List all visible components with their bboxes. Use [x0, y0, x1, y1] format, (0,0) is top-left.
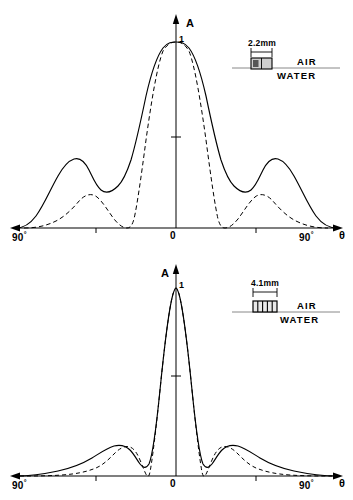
peak-value-label-top: 1 [179, 35, 184, 44]
x-tick-label-left-top: 90° [12, 231, 27, 243]
plot-bottom [0, 250, 353, 500]
y-axis-label-top: A [186, 18, 194, 29]
x-tick-label-center-top: 0 [170, 231, 176, 241]
inset-air-label-top: AIR [297, 57, 317, 67]
y-axis-arrow-bottom [173, 264, 179, 274]
x-tick-left-degree-bottom: ° [24, 479, 27, 486]
x-tick-label-right-bottom: 90° [299, 479, 314, 491]
x-tick-right-number-top: 90 [299, 232, 311, 243]
x-axis-label-bottom: θ [339, 478, 345, 489]
inset-size-label-bottom: 4.1mm [251, 279, 279, 288]
x-tick-label-left-bottom: 90° [12, 479, 27, 491]
x-tick-left-number-top: 90 [12, 232, 24, 243]
inset-transducer-block-bottom [253, 301, 277, 312]
peak-value-label-bottom: 1 [179, 281, 184, 290]
x-axis-label-top: θ [339, 230, 345, 241]
inset-size-label-top: 2.2mm [248, 39, 276, 48]
inset-transducer-cell-left-top [253, 60, 259, 67]
y-axis-label-bottom: A [161, 268, 169, 279]
y-axis-arrow-top [173, 14, 179, 24]
plot-top [0, 0, 353, 250]
x-tick-right-degree-bottom: ° [311, 479, 314, 486]
figure-two-panel-diffraction: A 1 90° 0 90° θ 2.2mm AIR WATER [0, 0, 353, 500]
panel-bottom: A 1 90° 0 90° θ 4.1mm AIR WATER [0, 250, 353, 500]
x-tick-right-degree-top: ° [311, 231, 314, 238]
x-tick-label-center-bottom: 0 [170, 479, 176, 489]
inset-water-label-bottom: WATER [280, 315, 319, 325]
x-tick-label-right-top: 90° [299, 231, 314, 243]
x-tick-left-degree-top: ° [24, 231, 27, 238]
inset-water-label-top: WATER [277, 71, 316, 81]
panel-top: A 1 90° 0 90° θ 2.2mm AIR WATER [0, 0, 353, 250]
inset-air-label-bottom: AIR [297, 301, 317, 311]
x-tick-right-number-bottom: 90 [299, 480, 311, 491]
x-tick-left-number-bottom: 90 [12, 480, 24, 491]
